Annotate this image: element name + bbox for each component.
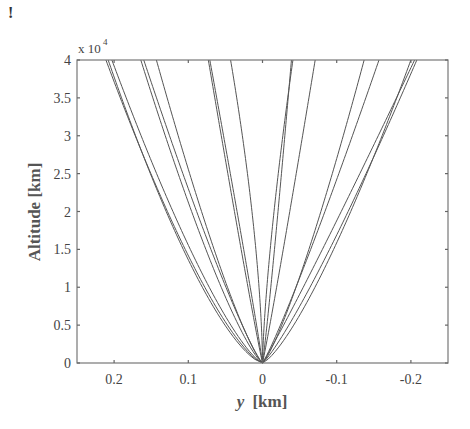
x-tick-label: 0.2 — [105, 372, 123, 387]
trajectory-6 — [156, 60, 262, 363]
y-tick-label: 4 — [64, 53, 71, 68]
y-multiplier-label: x 10 — [78, 41, 101, 56]
y-multiplier-exponent: 4 — [103, 37, 108, 47]
trajectory-12 — [263, 60, 316, 363]
y-tick-label: 0 — [64, 356, 71, 371]
tick-layer: 0.20.10-0.1-0.200.511.522.533.54 — [54, 53, 449, 387]
x-axis-title: y [km] — [235, 392, 288, 411]
y-tick-label: 1 — [64, 280, 71, 295]
chart: 0.20.10-0.1-0.200.511.522.533.54 x 10 4 … — [0, 0, 470, 429]
y-tick-label: 3.5 — [54, 91, 72, 106]
x-axis-title-unit: [km] — [252, 392, 287, 411]
y-tick-label: 3 — [64, 129, 71, 144]
x-tick-label: 0.1 — [180, 372, 198, 387]
trajectory-3 — [112, 60, 263, 363]
x-tick-label: -0.1 — [326, 372, 348, 387]
svg-text:y [km]: y [km] — [235, 392, 288, 411]
x-tick-label: 0 — [259, 372, 266, 387]
y-tick-label: 2.5 — [54, 167, 72, 182]
trajectory-7 — [208, 60, 262, 363]
y-tick-label: 1.5 — [54, 242, 72, 257]
trajectory-5 — [144, 60, 263, 363]
trajectory-9 — [231, 60, 263, 363]
x-axis-title-var: y — [235, 392, 245, 411]
y-tick-label: 2 — [64, 205, 71, 220]
trajectory-8 — [210, 60, 263, 363]
x-tick-label: -0.2 — [400, 372, 422, 387]
y-tick-label: 0.5 — [54, 318, 72, 333]
series-layer — [106, 60, 417, 363]
y-axis-title: Altitude [km] — [25, 163, 44, 262]
